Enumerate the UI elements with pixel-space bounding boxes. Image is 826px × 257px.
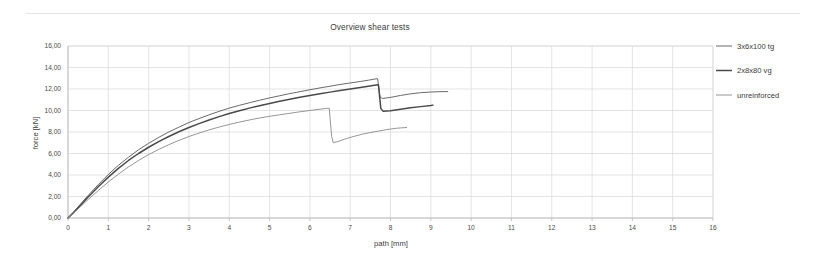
x-tick-label: 3 — [187, 224, 191, 231]
y-tick-label: 8,00 — [48, 128, 61, 135]
legend-label-3: unreinforced — [737, 91, 779, 100]
x-tick-label: 13 — [588, 224, 596, 231]
y-tick-label: 10,00 — [44, 107, 61, 114]
x-tick-label: 12 — [548, 224, 556, 231]
x-axis-tick-labels: 012345678910111213141516 — [66, 218, 717, 231]
x-tick-label: 0 — [66, 224, 70, 231]
y-tick-label: 0,00 — [48, 214, 61, 221]
series-line-2 — [68, 85, 433, 218]
y-tick-label: 12,00 — [44, 85, 61, 92]
x-tick-label: 16 — [709, 224, 717, 231]
x-tick-label: 7 — [348, 224, 352, 231]
x-tick-label: 6 — [308, 224, 312, 231]
series-line-3 — [68, 108, 407, 218]
legend-label-2: 2x8x80 vg — [737, 66, 772, 75]
x-tick-label: 2 — [147, 224, 151, 231]
x-tick-label: 10 — [467, 224, 475, 231]
y-tick-label: 2,00 — [48, 193, 61, 200]
shear-test-line-chart: 012345678910111213141516 0,002,004,006,0… — [0, 0, 826, 257]
y-tick-label: 6,00 — [48, 150, 61, 157]
gridlines — [68, 46, 713, 218]
y-tick-label: 4,00 — [48, 171, 61, 178]
x-tick-label: 1 — [106, 224, 110, 231]
legend-label-1: 3x6x100 tg — [737, 42, 774, 51]
y-tick-label: 16,00 — [44, 42, 61, 49]
x-tick-label: 15 — [669, 224, 677, 231]
legend: 3x6x100 tg2x8x80 vgunreinforced — [716, 42, 779, 100]
x-tick-label: 11 — [508, 224, 515, 231]
x-tick-label: 8 — [389, 224, 393, 231]
x-tick-label: 14 — [629, 224, 637, 231]
x-tick-label: 5 — [268, 224, 272, 231]
y-tick-label: 14,00 — [44, 64, 61, 71]
chart-figure: Overview shear tests 0123456789101112131… — [0, 0, 826, 257]
x-axis-title: path [mm] — [374, 239, 408, 248]
y-axis-tick-labels: 0,002,004,006,008,0010,0012,0014,0016,00 — [44, 42, 61, 221]
x-tick-label: 4 — [227, 224, 231, 231]
x-tick-label: 9 — [429, 224, 433, 231]
y-axis-title: force [kN] — [31, 117, 40, 150]
